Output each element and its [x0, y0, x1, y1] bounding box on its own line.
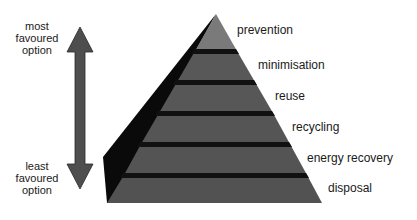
label-line: favoured — [2, 172, 72, 184]
label-line: option — [2, 44, 72, 56]
most-favoured-label: most favoured option — [2, 20, 72, 56]
label-line: option — [2, 184, 72, 196]
pyramid-level-reuse — [159, 82, 273, 113]
label-line: least — [2, 160, 72, 172]
level-label-minimisation: minimisation — [258, 59, 325, 72]
label-line: favoured — [2, 32, 72, 44]
pyramid-level-recycling — [141, 113, 290, 144]
pyramid-level-disposal — [107, 175, 322, 203]
label-line: most — [2, 20, 72, 32]
level-label-recycling: recycling — [292, 121, 339, 134]
pyramid-level-energy-recovery — [124, 144, 307, 175]
least-favoured-label: least favoured option — [2, 160, 72, 196]
level-label-reuse: reuse — [275, 90, 305, 103]
pyramid-level-prevention — [195, 14, 237, 51]
level-label-disposal: disposal — [328, 182, 372, 195]
level-label-energy-recovery: energy recovery — [307, 152, 393, 165]
level-label-prevention: prevention — [237, 24, 293, 37]
